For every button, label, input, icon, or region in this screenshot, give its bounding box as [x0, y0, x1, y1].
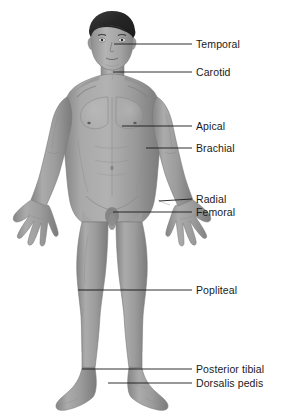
label-femoral: Femoral [196, 207, 235, 218]
label-radial: Radial [196, 194, 226, 205]
leader-lines [78, 44, 192, 383]
label-popliteal: Popliteal [196, 285, 237, 296]
leader-line-radial [159, 199, 192, 201]
label-temporal: Temporal [196, 39, 240, 50]
leader-lines-svg [0, 0, 281, 419]
label-apical: Apical [196, 121, 225, 132]
pulse-sites-diagram: TemporalCarotidApicalBrachialRadialFemor… [0, 0, 281, 419]
label-brachial: Brachial [196, 143, 235, 154]
label-posterior-tibial: Posterior tibial [196, 364, 264, 375]
label-dorsalis-pedis: Dorsalis pedis [196, 378, 263, 389]
label-carotid: Carotid [196, 67, 231, 78]
pulse-label-layer: TemporalCarotidApicalBrachialRadialFemor… [0, 0, 281, 419]
